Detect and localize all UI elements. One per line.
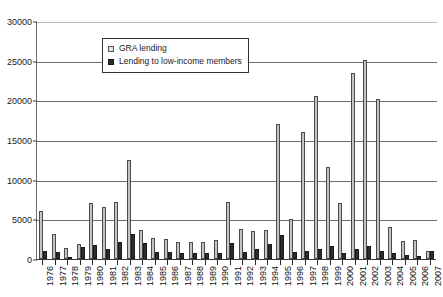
x-axis-label-cell: 1987 <box>174 266 187 297</box>
x-axis-tick-cell <box>36 260 49 265</box>
chart-legend: GRA lending Lending to low-income member… <box>102 38 249 73</box>
bar-gra-lending <box>301 132 305 259</box>
x-axis-tick-cell <box>299 260 312 265</box>
x-axis-tick-mark <box>80 260 81 265</box>
x-axis-tick-label: 2007 <box>434 266 443 286</box>
x-axis-tick-cell <box>236 260 249 265</box>
x-axis-tick-cell <box>336 260 349 265</box>
x-axis-tick-mark <box>155 260 156 265</box>
y-axis-tick-label: 30000 <box>7 18 32 27</box>
bar-low-income-lending <box>330 246 334 259</box>
bar-group <box>324 22 336 259</box>
bar-low-income-lending <box>293 252 297 259</box>
legend-label-gra-lending: GRA lending <box>119 44 167 53</box>
bar-group <box>299 22 311 259</box>
x-axis-tick-mark <box>167 260 168 265</box>
x-axis-label-cell: 1976 <box>36 266 49 297</box>
legend-swatch-dark-icon <box>108 59 114 65</box>
x-axis-tick-cell <box>86 260 99 265</box>
x-axis-tick-cell <box>386 260 399 265</box>
x-axis-label-cell: 2002 <box>361 266 374 297</box>
x-axis-tick-mark <box>105 260 106 265</box>
x-axis-tick-mark <box>242 260 243 265</box>
x-axis-label-cell: 1986 <box>161 266 174 297</box>
x-axis-tick-cell <box>261 260 274 265</box>
bar-low-income-lending <box>392 253 396 259</box>
bar-gra-lending <box>314 96 318 259</box>
x-axis-label-cell: 2000 <box>336 266 349 297</box>
x-axis-label-cell: 1985 <box>149 266 162 297</box>
x-axis-tick-cell <box>136 260 149 265</box>
x-axis-tick-mark <box>280 260 281 265</box>
x-axis-tick-mark <box>267 260 268 265</box>
x-axis-tick-cell <box>224 260 237 265</box>
x-axis-label-cell: 1997 <box>299 266 312 297</box>
x-axis-label-cell: 1999 <box>324 266 337 297</box>
x-axis-tick-mark <box>180 260 181 265</box>
x-axis-tick-cell <box>349 260 362 265</box>
x-axis-label-cell: 1982 <box>111 266 124 297</box>
x-axis-tick-cell <box>324 260 337 265</box>
x-axis-tick-mark <box>255 260 256 265</box>
x-axis-tick-mark <box>230 260 231 265</box>
bar-group <box>62 22 74 259</box>
x-axis-label-cell: 1978 <box>61 266 74 297</box>
x-axis-tick-mark <box>417 260 418 265</box>
x-axis-tick-mark <box>305 260 306 265</box>
x-axis-label-cell: 2004 <box>386 266 399 297</box>
x-axis-tick-mark <box>380 260 381 265</box>
x-axis-tick-mark <box>342 260 343 265</box>
x-axis-tick-mark <box>392 260 393 265</box>
x-axis-tick-cell <box>249 260 262 265</box>
bar-group <box>336 22 348 259</box>
bar-group <box>311 22 323 259</box>
bar-low-income-lending <box>342 253 346 259</box>
x-axis-label-cell: 2006 <box>411 266 424 297</box>
bar-low-income-lending <box>180 253 184 259</box>
x-axis-label-cell: 1984 <box>136 266 149 297</box>
x-axis-label-cell: 1977 <box>49 266 62 297</box>
bar-low-income-lending <box>417 256 421 259</box>
x-axis-tick-cell <box>274 260 287 265</box>
bar-low-income-lending <box>355 249 359 259</box>
bar-chart: 300002500020000150001000050000 197619771… <box>0 0 443 297</box>
bar-group <box>261 22 273 259</box>
x-axis-tick-mark <box>130 260 131 265</box>
x-axis-label-cell: 1998 <box>311 266 324 297</box>
x-axis-tick-cell <box>174 260 187 265</box>
x-axis-label-cell: 1988 <box>186 266 199 297</box>
x-axis-tick-cell <box>61 260 74 265</box>
y-axis-tick-label: 25000 <box>7 57 32 66</box>
x-axis-tick-mark <box>42 260 43 265</box>
x-axis-tick-cell <box>161 260 174 265</box>
x-axis-tick-mark <box>67 260 68 265</box>
x-axis-tick-cell <box>111 260 124 265</box>
bar-group <box>361 22 373 259</box>
bar-group <box>399 22 411 259</box>
x-axis-tick-cell <box>399 260 412 265</box>
x-axis-tick-cell <box>74 260 87 265</box>
x-axis-label-cell: 2001 <box>349 266 362 297</box>
bar-low-income-lending <box>255 249 259 259</box>
x-axis-label-cell: 1991 <box>224 266 237 297</box>
bar-low-income-lending <box>318 249 322 259</box>
y-axis-tick-label: 5000 <box>12 216 32 225</box>
bar-group <box>424 22 436 259</box>
x-axis-label-cell: 1983 <box>124 266 137 297</box>
x-axis-tick-cell <box>99 260 112 265</box>
x-axis-tick-mark <box>92 260 93 265</box>
bar-gra-lending <box>363 60 367 259</box>
x-axis-tick-mark <box>367 260 368 265</box>
x-axis-label-cell: 1990 <box>211 266 224 297</box>
x-axis-label-cell: 1979 <box>74 266 87 297</box>
bar-group <box>49 22 61 259</box>
bar-group <box>411 22 423 259</box>
bar-gra-lending <box>326 167 330 259</box>
y-axis-tick-label: 0 <box>27 256 32 265</box>
x-axis-tick-mark <box>205 260 206 265</box>
bar-low-income-lending <box>380 251 384 259</box>
bar-low-income-lending <box>43 251 47 259</box>
x-axis-label-cell: 1980 <box>86 266 99 297</box>
bar-low-income-lending <box>367 246 371 259</box>
x-axis-label-cell: 2007 <box>424 266 437 297</box>
